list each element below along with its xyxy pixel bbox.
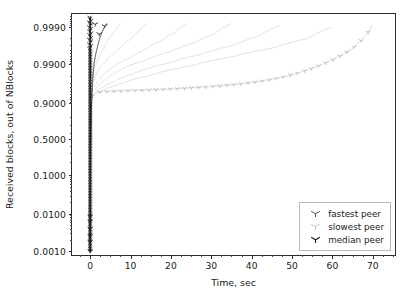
y-axis-minor-tick — [70, 181, 72, 182]
y-axis-minor-tick — [70, 191, 72, 192]
y-axis-minor-tick — [70, 87, 72, 88]
y-axis-tick-label: 0.1000 — [33, 169, 66, 180]
y-axis-minor-tick — [70, 229, 72, 230]
x-axis-minor-tick — [80, 255, 81, 257]
x-axis-tick — [332, 255, 333, 259]
y-axis-tick-label: 0.9990 — [33, 21, 66, 32]
x-axis-minor-tick — [272, 255, 273, 257]
x-axis-minor-tick — [262, 255, 263, 257]
plot-axes: fastest peer slowest peer median peer — [71, 13, 396, 256]
y-axis-minor-tick — [70, 25, 72, 26]
x-axis-tick — [171, 255, 172, 259]
y-axis-minor-tick — [70, 27, 72, 28]
y-axis-minor-tick — [70, 83, 72, 84]
y-axis-minor-tick — [70, 184, 72, 185]
tri-down-marker-icon — [337, 55, 342, 58]
y-axis-minor-tick — [70, 233, 72, 234]
x-axis-tick — [211, 255, 212, 259]
tri-down-marker-icon — [92, 23, 98, 27]
y-axis-minor-tick — [70, 64, 72, 65]
y-axis-minor-tick — [70, 240, 72, 241]
series-line — [93, 23, 146, 82]
y-axis-minor-tick — [70, 56, 72, 57]
series-line — [98, 27, 332, 92]
x-axis-label: Time, sec — [71, 277, 396, 288]
y-axis-tick — [69, 175, 73, 176]
y-axis-tick-label: 0.0100 — [33, 208, 66, 219]
series-line — [96, 25, 280, 91]
y-axis-minor-tick — [70, 45, 72, 46]
x-axis-minor-tick — [322, 255, 323, 257]
y-axis-minor-tick — [70, 16, 72, 17]
chart-legend: fastest peer slowest peer median peer — [299, 202, 391, 251]
y-axis-minor-tick — [70, 91, 72, 92]
legend-item-median-peer: median peer — [304, 233, 384, 246]
y-axis-minor-tick — [70, 94, 72, 95]
y-axis-minor-tick — [70, 102, 72, 103]
y-axis-tick-label: 0.9900 — [33, 59, 66, 70]
y-axis-minor-tick — [70, 61, 72, 62]
chart-figure: Received blocks, out of NBlocks fastest … — [0, 0, 413, 299]
x-axis-label-text: Time, sec — [211, 277, 256, 288]
series-line — [95, 23, 231, 89]
y-axis-minor-tick — [70, 202, 72, 203]
y-axis-minor-tick — [70, 50, 72, 51]
x-axis-tick-label: 0 — [87, 260, 93, 271]
y-axis-minor-tick — [70, 125, 72, 126]
x-axis-minor-tick — [191, 255, 192, 257]
x-axis-minor-tick — [363, 255, 364, 257]
y-axis-minor-tick — [70, 99, 72, 100]
y-axis-label-text: Received blocks, out of NBlocks — [4, 60, 15, 209]
x-axis-minor-tick — [312, 255, 313, 257]
y-axis-minor-tick — [70, 53, 72, 54]
x-axis-minor-tick — [110, 255, 111, 257]
x-axis-minor-tick — [120, 255, 121, 257]
y-axis-minor-tick — [70, 146, 72, 147]
tri-down-marker-icon — [304, 230, 326, 249]
x-axis-tick — [292, 255, 293, 259]
y-axis-tick — [69, 251, 73, 252]
x-axis-minor-tick — [342, 255, 343, 257]
y-axis-tick-label: 0.9000 — [33, 98, 66, 109]
x-axis-tick-label: 10 — [125, 260, 137, 271]
x-axis-minor-tick — [242, 255, 243, 257]
y-axis-minor-tick — [70, 117, 72, 118]
x-axis-minor-tick — [161, 255, 162, 257]
x-axis-tick-label: 20 — [165, 260, 177, 271]
y-axis-minor-tick — [70, 23, 72, 24]
x-axis-minor-tick — [383, 255, 384, 257]
y-axis-minor-tick — [70, 153, 72, 154]
y-axis-minor-tick — [70, 19, 72, 20]
y-axis-minor-tick — [70, 21, 72, 22]
y-axis-minor-tick — [70, 222, 72, 223]
x-axis-minor-tick — [201, 255, 202, 257]
x-axis-tick-label: 60 — [327, 260, 339, 271]
y-axis-minor-tick — [70, 177, 72, 178]
y-axis-minor-tick — [70, 38, 72, 39]
y-axis-tick-label: 0.0010 — [33, 246, 66, 257]
x-axis-minor-tick — [282, 255, 283, 257]
legend-label-fastest-peer: fastest peer — [326, 209, 381, 219]
x-axis-tick — [373, 255, 374, 259]
x-axis-tick-label: 30 — [205, 260, 217, 271]
x-axis-tick-label: 70 — [367, 260, 379, 271]
y-axis-minor-tick — [70, 187, 72, 188]
y-axis-minor-tick — [70, 162, 72, 163]
y-axis-minor-tick — [70, 217, 72, 218]
x-axis-tick — [90, 255, 91, 259]
y-axis-tick-label: 0.5000 — [33, 134, 66, 145]
x-axis-minor-tick — [353, 255, 354, 257]
legend-label-slowest-peer: slowest peer — [326, 222, 384, 232]
y-axis-minor-tick — [70, 139, 72, 140]
x-axis-minor-tick — [393, 255, 394, 257]
y-axis-label: Received blocks, out of NBlocks — [2, 13, 16, 256]
x-axis-minor-tick — [221, 255, 222, 257]
y-axis-minor-tick — [70, 97, 72, 98]
tri-down-marker-icon — [102, 25, 108, 29]
y-axis-minor-tick — [70, 225, 72, 226]
x-axis-tick — [252, 255, 253, 259]
y-axis-minor-tick — [70, 196, 72, 197]
y-axis-minor-tick — [70, 103, 72, 104]
x-axis-tick-label: 40 — [246, 260, 258, 271]
x-axis-minor-tick — [141, 255, 142, 257]
